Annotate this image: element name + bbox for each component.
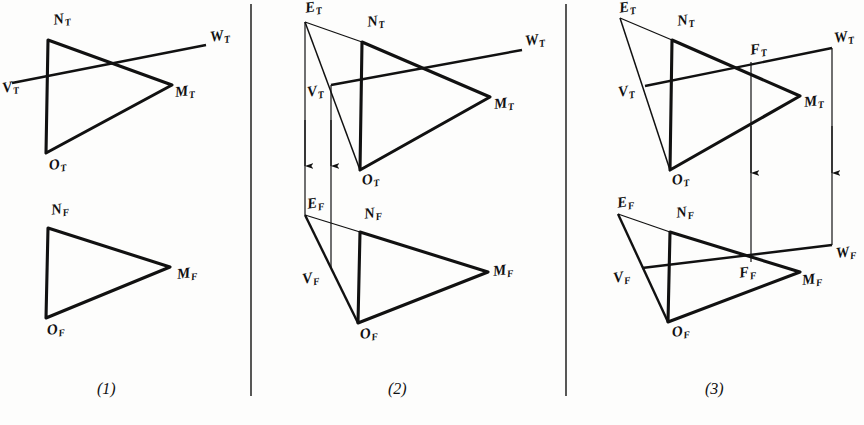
label-WF-panel3: WF <box>835 243 857 262</box>
label-OT-panel2: OT <box>361 170 380 189</box>
label-FF-panel3: FF <box>738 263 757 282</box>
label-VF-panel3: VF <box>612 267 631 286</box>
label-MT-panel3: MT <box>803 92 824 111</box>
label-FT-panel3: FT <box>749 40 767 59</box>
panel-2-front-view <box>305 215 488 323</box>
label-NT-panel2: NT <box>366 12 385 31</box>
label-MF-panel1: MF <box>176 264 198 283</box>
triangle-MNO-front <box>668 232 800 322</box>
triangle-MNO-top <box>360 42 490 170</box>
label-VT-panel3: VT <box>617 82 635 101</box>
line-EN-top <box>620 18 672 40</box>
label-OF-panel1: OF <box>46 320 65 339</box>
label-NF-panel3: NF <box>675 203 695 222</box>
triangle-MNO-top <box>46 40 172 153</box>
label-VT-panel1: VT <box>1 77 20 96</box>
panel-2-drawing <box>305 22 522 323</box>
panel-2-top-view <box>305 22 522 170</box>
label-MT-panel1: MT <box>174 82 195 101</box>
label-OF-panel2: OF <box>359 324 378 343</box>
line-EN-top <box>305 22 362 42</box>
caption-panel-2: (2) <box>388 380 407 398</box>
figure-root: NT OT MT VT WT NF OF MF ET NT OT MT VT W… <box>0 0 864 425</box>
label-WT-panel1: WT <box>209 26 231 46</box>
panel-3-front-view <box>618 214 832 322</box>
panel-1-front-view <box>46 228 170 318</box>
caption-panel-1: (1) <box>97 380 116 398</box>
label-MT-panel2: MT <box>493 94 514 113</box>
label-NF-panel2: NF <box>363 204 383 223</box>
label-WT-panel2: WT <box>524 30 546 50</box>
caption-panel-3: (3) <box>705 380 724 398</box>
triangle-MNO-front <box>358 232 488 323</box>
label-ET-panel3: ET <box>618 0 636 17</box>
panel-3-drawing <box>618 18 832 322</box>
label-MF-panel2: MF <box>492 261 514 280</box>
label-VF-panel2: VF <box>301 268 320 287</box>
figure-drawing <box>0 0 864 425</box>
line-VW-top <box>12 45 206 83</box>
label-NF-panel1: NF <box>50 200 70 219</box>
label-EF-panel2: EF <box>306 194 325 213</box>
label-NT-panel3: NT <box>676 11 695 30</box>
label-ET-panel2: ET <box>304 0 322 17</box>
label-WT-panel3: WT <box>833 27 855 47</box>
label-OT-panel1: OT <box>48 155 67 174</box>
label-OF-panel3: OF <box>671 322 690 341</box>
label-VT-panel2: VT <box>306 82 324 101</box>
label-EF-panel3: EF <box>616 193 635 212</box>
label-MF-panel3: MF <box>801 270 823 289</box>
label-NT-panel1: NT <box>52 9 71 28</box>
line-VW-top <box>331 50 522 85</box>
panel-3-top-view <box>620 18 832 170</box>
label-OT-panel3: OT <box>671 170 690 189</box>
triangle-MNO-front <box>46 228 170 318</box>
